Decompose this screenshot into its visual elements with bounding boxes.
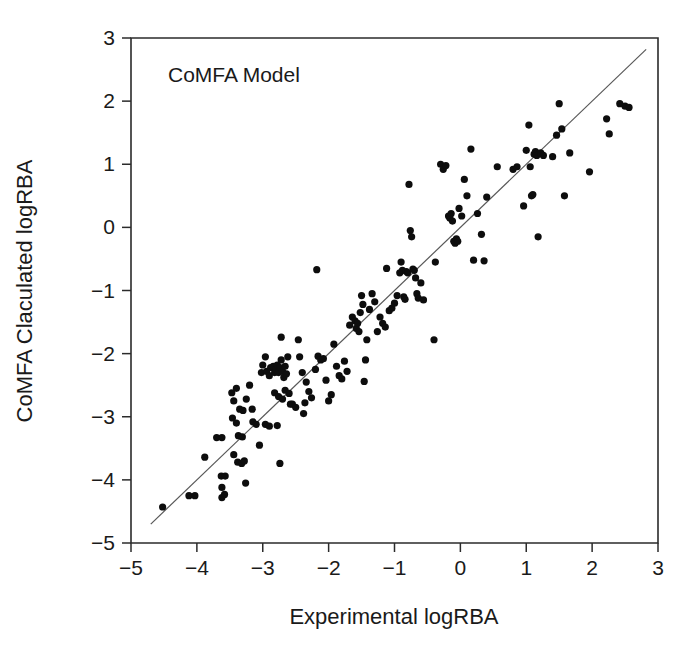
data-point: [558, 125, 565, 132]
data-point: [239, 407, 246, 414]
data-point: [286, 390, 293, 397]
data-point: [586, 168, 593, 175]
data-point: [201, 454, 208, 461]
data-point: [553, 132, 560, 139]
axis-labels: CoMFA Model Experimental logRBA CoMFA Cl…: [12, 63, 499, 629]
data-point: [417, 279, 424, 286]
data-point: [312, 366, 319, 373]
data-point: [218, 434, 225, 441]
data-point: [295, 336, 302, 343]
data-point: [338, 375, 345, 382]
data-point: [355, 328, 362, 335]
data-point: [246, 382, 253, 389]
data-point: [408, 233, 415, 240]
data-point: [449, 217, 456, 224]
data-point: [454, 238, 461, 245]
y-tick-label: 3: [103, 26, 115, 49]
data-point: [394, 292, 401, 299]
data-point: [401, 296, 408, 303]
data-point: [308, 394, 315, 401]
data-point: [405, 181, 412, 188]
data-point: [259, 361, 266, 368]
data-point: [274, 422, 281, 429]
data-point: [432, 258, 439, 265]
data-point: [549, 153, 556, 160]
data-point: [303, 378, 310, 385]
data-point: [376, 313, 383, 320]
data-point: [284, 353, 291, 360]
identity-reference-line: [151, 49, 646, 524]
x-tick-label: 0: [455, 556, 467, 579]
data-point: [343, 368, 350, 375]
scatter-plot: −5−4−3−2−10123 −5−4−3−2−10123 CoMFA Mode…: [0, 0, 689, 646]
data-point: [566, 149, 573, 156]
data-point: [397, 258, 404, 265]
x-tick-label: −1: [383, 556, 407, 579]
data-point: [391, 300, 398, 307]
data-point: [527, 163, 534, 170]
data-point: [556, 100, 563, 107]
data-point: [382, 324, 389, 331]
y-axis-ticks: −5−4−3−2−10123: [91, 26, 131, 554]
data-point: [529, 191, 536, 198]
data-point: [299, 369, 306, 376]
y-tick-label: 1: [103, 152, 115, 175]
data-point: [412, 274, 419, 281]
data-point: [354, 320, 361, 327]
data-point: [233, 385, 240, 392]
data-point: [625, 104, 632, 111]
x-axis-ticks: −5−4−3−2−10123: [119, 543, 664, 579]
data-point: [535, 233, 542, 240]
x-tick-label: −5: [119, 556, 143, 579]
data-point: [253, 421, 260, 428]
data-point: [278, 334, 285, 341]
x-tick-label: 2: [586, 556, 598, 579]
data-point: [520, 202, 527, 209]
x-tick-label: 1: [520, 556, 532, 579]
data-point: [292, 404, 299, 411]
data-point: [330, 341, 337, 348]
data-point: [301, 399, 308, 406]
data-point: [341, 358, 348, 365]
data-point: [328, 391, 335, 398]
data-point: [262, 353, 269, 360]
y-tick-label: −4: [91, 468, 115, 491]
data-point: [266, 423, 273, 430]
data-point: [283, 370, 290, 377]
data-point: [359, 301, 366, 308]
data-point: [420, 296, 427, 303]
data-point: [513, 163, 520, 170]
data-point: [561, 192, 568, 199]
data-point: [470, 257, 477, 264]
data-point: [455, 205, 462, 212]
data-point: [239, 433, 246, 440]
data-point: [191, 492, 198, 499]
data-point: [325, 397, 332, 404]
data-point: [249, 406, 256, 413]
data-point: [357, 309, 364, 316]
y-tick-label: −2: [91, 342, 115, 365]
data-point: [241, 457, 248, 464]
data-point: [480, 257, 487, 264]
data-point: [366, 306, 373, 313]
data-point: [159, 503, 166, 510]
data-point: [606, 130, 613, 137]
data-point: [458, 212, 465, 219]
x-tick-label: −2: [317, 556, 341, 579]
data-point: [300, 410, 307, 417]
data-point: [296, 353, 303, 360]
x-axis-title: Experimental logRBA: [289, 604, 498, 629]
data-point: [483, 193, 490, 200]
data-point: [474, 210, 481, 217]
figure-container: −5−4−3−2−10123 −5−4−3−2−10123 CoMFA Mode…: [0, 0, 689, 646]
data-point: [279, 395, 286, 402]
data-point: [278, 356, 285, 363]
data-point: [540, 152, 547, 159]
data-point: [363, 336, 370, 343]
annotation-comfa-model: CoMFA Model: [168, 63, 300, 86]
data-point: [358, 292, 365, 299]
data-point: [276, 460, 283, 467]
data-points: [159, 100, 633, 511]
y-tick-label: −3: [91, 405, 115, 428]
data-point: [494, 163, 501, 170]
